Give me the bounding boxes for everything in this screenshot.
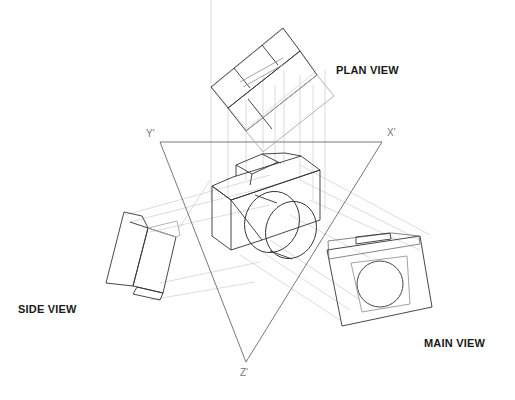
plan-view-label: PLAN VIEW — [336, 64, 399, 76]
side-view-drawing — [106, 212, 180, 300]
axis-x-label: X' — [387, 127, 396, 138]
construction-lines — [125, 0, 430, 320]
plan-view-drawing — [211, 28, 334, 152]
side-view-label: SIDE VIEW — [18, 303, 77, 315]
camera-isometric — [212, 153, 324, 266]
axis-y-label: Y' — [146, 128, 155, 139]
axis-z-label: Z' — [240, 367, 248, 378]
main-view-label: MAIN VIEW — [424, 337, 485, 349]
main-view-drawing — [327, 233, 432, 326]
axis-triangle — [160, 142, 382, 362]
